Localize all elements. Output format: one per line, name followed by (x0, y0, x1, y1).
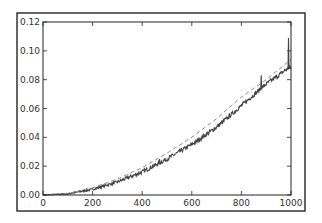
figure-frame (17, 13, 305, 211)
y-tick-label: 0.04 (20, 132, 40, 142)
x-tick-label: 400 (134, 198, 151, 208)
x-tick-label: 0 (40, 198, 46, 208)
x-tick-label: 600 (183, 198, 200, 208)
x-tick-label: 1000 (280, 198, 303, 208)
y-tick-label: 0.02 (20, 161, 40, 171)
x-tick-label: 200 (84, 198, 101, 208)
x-tick-label: 800 (233, 198, 250, 208)
y-tick-label: 0.06 (20, 104, 40, 114)
y-tick-label: 0.08 (20, 75, 40, 85)
y-tick-label: 0.12 (20, 17, 40, 27)
chart-figure: 020040060080010000.000.020.040.060.080.1… (0, 0, 322, 223)
y-tick-label: 0.10 (20, 46, 40, 56)
y-tick-label: 0.00 (20, 190, 40, 200)
